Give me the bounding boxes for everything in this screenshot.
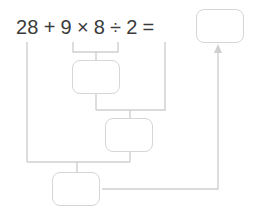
expression: 28 + 9 × 8 ÷ 2 = (16, 12, 160, 42)
operand-8: 8 (94, 17, 105, 37)
operator-equals: = (143, 17, 155, 37)
operand-2: 2 (126, 17, 137, 37)
worksheet-canvas: 28 + 9 × 8 ÷ 2 = (0, 0, 258, 218)
operator-divide: ÷ (110, 17, 121, 37)
operand-9: 9 (61, 17, 72, 37)
answer-input-box[interactable] (196, 9, 244, 43)
work-box-step-1[interactable] (72, 60, 120, 94)
arrowhead-icon (214, 44, 222, 53)
operator-times: × (77, 17, 89, 37)
work-box-step-2[interactable] (105, 118, 153, 152)
bracket-multiply (73, 42, 118, 52)
operator-plus: + (44, 17, 56, 37)
operand-28: 28 (16, 17, 39, 37)
work-box-step-3[interactable] (52, 172, 100, 206)
